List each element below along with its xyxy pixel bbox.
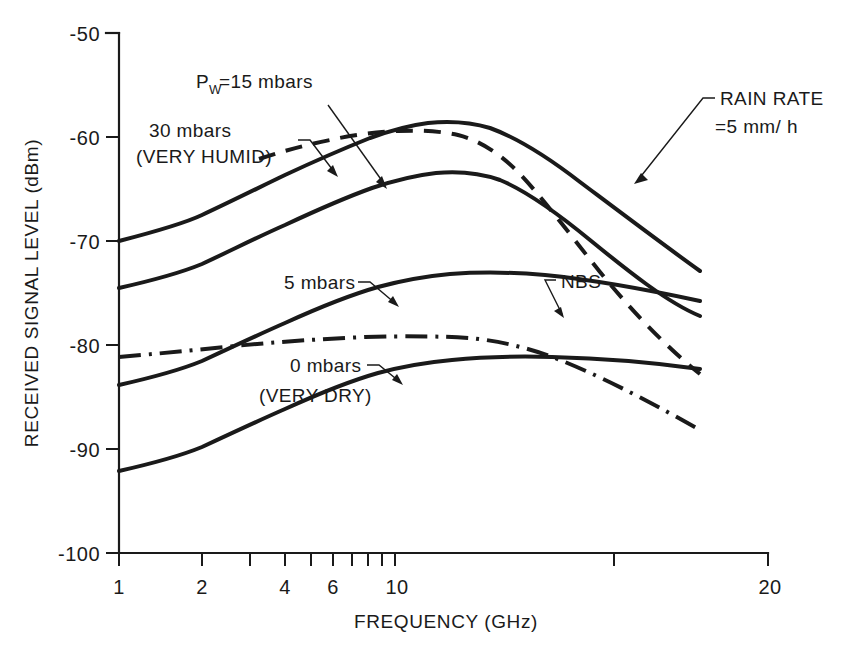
curve-pw-15-mbars <box>119 122 700 271</box>
y-axis-title: RECEIVED SIGNAL LEVEL (dBm) <box>21 139 42 447</box>
y-tick-label--50: -50 <box>70 23 100 45</box>
y-axis-ticks <box>106 33 119 553</box>
y-tick-label--80: -80 <box>70 335 100 357</box>
curve-nbs <box>119 336 700 430</box>
x-axis-ticks <box>119 553 768 566</box>
label-0-mbars-note: (VERY DRY) <box>259 385 372 406</box>
x-tick-label-4: 4 <box>279 576 291 598</box>
label-pw-value: =15 mbars <box>219 71 313 92</box>
arrowhead-0-mbars <box>392 374 403 385</box>
received-signal-level-chart: -50 -60 -70 -80 -90 -100 1 2 4 <box>0 0 857 647</box>
chart-figure: -50 -60 -70 -80 -90 -100 1 2 4 <box>0 0 857 647</box>
curve-labels: P W =15 mbars 30 mbars (VERY HUMID) 5 mb… <box>136 71 824 406</box>
curve-30-mbars <box>119 172 700 316</box>
label-30-mbars-note: (VERY HUMID) <box>136 146 272 167</box>
x-tick-labels: 1 2 4 6 10 20 <box>113 576 781 598</box>
x-tick-label-20: 20 <box>758 576 781 598</box>
label-rain-rate: RAIN RATE <box>720 88 824 109</box>
y-tick-label--60: -60 <box>70 127 100 149</box>
label-nbs: NBS <box>561 271 601 292</box>
arrowhead-5-mbars <box>388 296 399 307</box>
label-5-mbars: 5 mbars <box>284 272 355 293</box>
leader-rain-rate <box>638 98 715 180</box>
arrowhead-nbs <box>554 307 564 318</box>
data-curves <box>119 122 700 471</box>
y-tick-label--70: -70 <box>70 231 100 253</box>
y-tick-label--100: -100 <box>58 543 100 565</box>
arrowhead-30-mbars <box>327 165 338 177</box>
label-30-mbars: 30 mbars <box>149 120 231 141</box>
label-pw-prefix: P <box>196 71 209 92</box>
x-tick-label-10: 10 <box>385 576 408 598</box>
label-0-mbars: 0 mbars <box>290 355 361 376</box>
x-tick-label-1: 1 <box>113 576 125 598</box>
leader-pw-15 <box>328 105 385 185</box>
x-tick-label-2: 2 <box>196 576 208 598</box>
arrowhead-rain-rate <box>634 173 648 184</box>
x-tick-label-6: 6 <box>327 576 339 598</box>
label-rain-rate-value: =5 mm/ h <box>715 116 798 137</box>
x-axis-title: FREQUENCY (GHz) <box>354 611 538 632</box>
curve-0-mbars <box>119 357 700 471</box>
y-tick-label--90: -90 <box>70 439 100 461</box>
y-tick-labels: -50 -60 -70 -80 -90 -100 <box>58 23 100 565</box>
